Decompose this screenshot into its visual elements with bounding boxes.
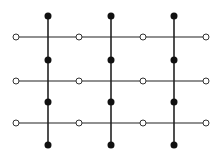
open-node [13,34,19,40]
open-node [76,120,82,126]
filled-node [171,57,178,64]
filled-node [45,57,52,64]
open-node [140,78,146,84]
filled-node [108,13,115,20]
open-node [76,78,82,84]
filled-node [171,142,178,149]
filled-node [108,57,115,64]
open-node [13,120,19,126]
filled-node [45,13,52,20]
open-node [203,120,209,126]
filled-node [171,13,178,20]
filled-node [45,99,52,106]
open-node [76,34,82,40]
open-node [140,120,146,126]
filled-node [45,142,52,149]
lattice-diagram [0,0,218,156]
open-node [203,78,209,84]
open-node [13,78,19,84]
filled-node [171,99,178,106]
filled-node [108,99,115,106]
open-node [140,34,146,40]
filled-node [108,142,115,149]
open-node [203,34,209,40]
